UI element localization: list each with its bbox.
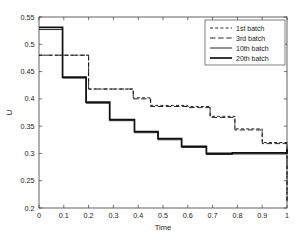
y-tick-label: 0.5: [25, 40, 35, 49]
y-tick-label: 0.45: [21, 67, 35, 76]
y-tick-label: 0.4: [25, 94, 35, 103]
x-tick-label: 0.8: [232, 211, 242, 220]
y-tick-label: 0.2: [25, 204, 35, 213]
x-axis-title: Time: [155, 223, 172, 232]
x-tick-label: 0.9: [257, 211, 267, 220]
y-tick-label: 0.25: [21, 176, 35, 185]
legend-label-3rd-batch: 3rd batch: [236, 35, 265, 42]
x-tick-label: 0.3: [108, 211, 118, 220]
x-tick-label: 0.5: [158, 211, 168, 220]
x-tick-label: 0.1: [59, 211, 69, 220]
y-axis-title: U: [5, 110, 14, 115]
legend-label-1st-batch: 1st batch: [236, 25, 265, 32]
chart-svg: 00.10.20.30.40.50.60.70.80.910.20.250.30…: [0, 0, 305, 246]
y-tick-label: 0.55: [21, 13, 35, 22]
x-tick-label: 0.4: [133, 211, 143, 220]
legend-label-10th-batch: 10th batch: [236, 45, 269, 52]
x-tick-label: 0: [37, 211, 41, 220]
x-tick-label: 1: [285, 211, 289, 220]
x-tick-label: 0.6: [183, 211, 193, 220]
y-tick-label: 0.3: [25, 149, 35, 158]
x-tick-label: 0.7: [208, 211, 218, 220]
chart-figure: 00.10.20.30.40.50.60.70.80.910.20.250.30…: [0, 0, 305, 246]
legend-label-20th-batch: 20th batch: [236, 55, 269, 62]
y-tick-label: 0.35: [21, 122, 35, 131]
x-tick-label: 0.2: [84, 211, 94, 220]
